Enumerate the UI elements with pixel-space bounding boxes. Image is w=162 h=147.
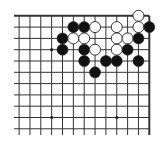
black-stone[interactable] [90,67,101,78]
black-stone[interactable] [79,56,90,67]
white-stone[interactable] [122,33,133,44]
black-stone[interactable] [122,44,133,55]
white-stone[interactable] [79,33,90,44]
white-stone[interactable] [133,10,144,21]
black-stone[interactable] [100,56,111,67]
star-point [115,116,118,119]
black-stone[interactable] [57,33,68,44]
black-stone[interactable] [133,33,144,44]
white-stone[interactable] [111,44,122,55]
black-stone[interactable] [79,44,90,55]
black-stone[interactable] [79,22,90,33]
white-stone[interactable] [111,33,122,44]
star-point [50,116,53,119]
white-stone[interactable] [133,22,144,33]
go-board[interactable] [0,0,162,147]
black-stone[interactable] [133,56,144,67]
white-stone[interactable] [68,33,79,44]
white-stone[interactable] [90,44,101,55]
white-stone[interactable] [90,22,101,33]
star-point [50,48,53,51]
black-stone[interactable] [57,44,68,55]
white-stone[interactable] [111,22,122,33]
black-stone[interactable] [68,22,79,33]
black-stone[interactable] [111,56,122,67]
black-stone[interactable] [144,22,155,33]
